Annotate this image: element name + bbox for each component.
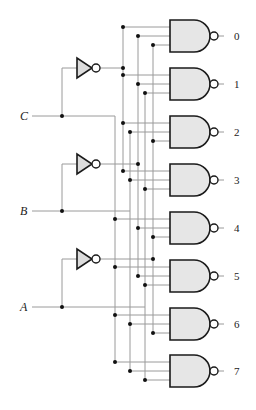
input-label-a: A — [19, 300, 28, 314]
output-label-4: 4 — [234, 222, 240, 234]
junction-dot — [136, 162, 140, 166]
output-label-1: 1 — [234, 78, 240, 90]
junction-dot — [113, 217, 117, 221]
output-label-3: 3 — [234, 174, 240, 186]
nand-gate-6 — [170, 308, 210, 340]
inverter-bubble-icon — [92, 64, 100, 72]
inverter-b — [77, 154, 92, 174]
nand-gate-0 — [170, 20, 210, 52]
junction-dot — [121, 169, 125, 173]
junction-dot — [143, 91, 147, 95]
junction-dot — [121, 121, 125, 125]
junction-dot — [128, 130, 132, 134]
input-label-c: C — [20, 109, 29, 123]
output-label-7: 7 — [234, 365, 240, 377]
input-label-b: B — [20, 204, 28, 218]
nand-gate-4 — [170, 212, 210, 244]
inverter-input-wire — [62, 259, 77, 307]
junction-dot — [136, 274, 140, 278]
junction-dot — [60, 114, 64, 118]
nand-bubble-icon — [210, 272, 218, 280]
junction-dot — [121, 66, 125, 70]
inverter-c — [77, 58, 92, 78]
junction-dot — [113, 313, 117, 317]
nand-bubble-icon — [210, 320, 218, 328]
nand-bubble-icon — [210, 80, 218, 88]
output-label-6: 6 — [234, 318, 240, 330]
nand-gate-5 — [170, 260, 210, 292]
nand-gate-3 — [170, 164, 210, 196]
junction-dot — [151, 43, 155, 47]
junction-dot — [121, 73, 125, 77]
junction-dot — [121, 25, 125, 29]
junction-dot — [60, 209, 64, 213]
junction-dot — [151, 257, 155, 261]
output-label-2: 2 — [234, 126, 240, 138]
inverter-a — [77, 249, 92, 269]
nand-bubble-icon — [210, 128, 218, 136]
nand-gate-1 — [170, 68, 210, 100]
inverter-bubble-icon — [92, 160, 100, 168]
junction-dot — [60, 305, 64, 309]
junction-dot — [136, 82, 140, 86]
inverter-input-wire — [62, 68, 77, 116]
inverter-input-wire — [62, 164, 77, 211]
nand-gate-7 — [170, 355, 210, 387]
junction-dot — [151, 235, 155, 239]
junction-dot — [143, 378, 147, 382]
junction-dot — [128, 322, 132, 326]
junction-dot — [113, 265, 117, 269]
nand-bubble-icon — [210, 367, 218, 375]
nand-bubble-icon — [210, 224, 218, 232]
junction-dot — [151, 139, 155, 143]
inverters — [77, 58, 100, 269]
nand-gate-2 — [170, 116, 210, 148]
output-label-0: 0 — [234, 30, 240, 42]
junction-dot — [143, 283, 147, 287]
junction-dot — [128, 369, 132, 373]
inverter-bubble-icon — [92, 255, 100, 263]
junction-dot — [151, 331, 155, 335]
output-label-5: 5 — [234, 270, 240, 282]
nand-gates — [170, 20, 218, 387]
junction-dot — [143, 187, 147, 191]
nand-bubble-icon — [210, 32, 218, 40]
junction-dot — [136, 226, 140, 230]
junction-dot — [128, 178, 132, 182]
junction-dot — [113, 360, 117, 364]
nand-bubble-icon — [210, 176, 218, 184]
junction-dots — [60, 25, 155, 382]
decoder-circuit-diagram: CBA01234567 — [0, 0, 256, 410]
junction-dot — [136, 34, 140, 38]
